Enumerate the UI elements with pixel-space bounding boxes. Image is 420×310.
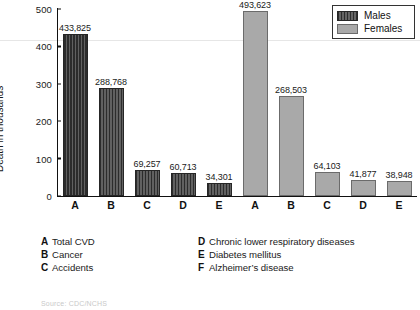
x-axis-tick-label: E bbox=[381, 199, 417, 211]
legend-label-females: Females bbox=[364, 23, 402, 34]
key-item: B Cancer bbox=[41, 249, 95, 262]
key-item: C Accidents bbox=[41, 262, 95, 275]
y-axis-tick: 200 bbox=[36, 116, 57, 127]
key-letter: D bbox=[198, 236, 209, 247]
bar-males-b: 288,768 bbox=[99, 88, 124, 196]
bar-males-c: 69,257 bbox=[135, 170, 160, 196]
key-item: A Total CVD bbox=[41, 236, 95, 249]
legend-entry-males: Males bbox=[337, 9, 410, 22]
bar-females-b: 268,503 bbox=[279, 96, 304, 196]
bar-slot: 288,768 bbox=[99, 9, 124, 196]
x-axis-tick-label: A bbox=[237, 199, 273, 211]
key-item: F Alzheimer’s disease bbox=[198, 262, 354, 275]
bar-value-label: 41,877 bbox=[350, 169, 377, 179]
y-axis-tick: 0 bbox=[47, 191, 57, 202]
key-letter: B bbox=[41, 249, 52, 260]
category-key-left-column: A Total CVD B Cancer C Accidents bbox=[41, 236, 95, 275]
key-text: Cancer bbox=[52, 249, 83, 260]
x-axis-tick-label: E bbox=[201, 199, 237, 211]
key-text: Diabetes mellitus bbox=[209, 249, 281, 260]
key-item: D Chronic lower respiratory diseases bbox=[198, 236, 354, 249]
bar-slot: 493,623 bbox=[243, 9, 268, 196]
key-letter: F bbox=[198, 262, 209, 273]
y-axis-title-text: Death in thousands bbox=[0, 52, 5, 172]
key-text: Total CVD bbox=[52, 236, 95, 247]
bar-slot: 34,301 bbox=[207, 9, 232, 196]
bar-value-label: 493,623 bbox=[239, 0, 271, 10]
bar-value-label: 64,103 bbox=[314, 161, 341, 171]
legend-swatch-females-icon bbox=[337, 24, 358, 34]
bar-value-label: 69,257 bbox=[134, 159, 161, 169]
bar-females-c: 64,103 bbox=[315, 172, 340, 196]
y-axis-tick: 300 bbox=[36, 78, 57, 89]
x-axis-line bbox=[57, 196, 417, 197]
legend-swatch-males-icon bbox=[337, 11, 358, 21]
x-axis-tick-label: B bbox=[273, 199, 309, 211]
bar-chart-figure: Death in thousands 0100200300400500 433,… bbox=[0, 0, 420, 310]
x-axis-tick-label: C bbox=[129, 199, 165, 211]
bar-value-label: 288,768 bbox=[95, 77, 127, 87]
x-axis-labels: ABCDEABCDE bbox=[57, 199, 417, 215]
legend-entry-females: Females bbox=[337, 22, 410, 35]
x-axis-tick-label: A bbox=[57, 199, 93, 211]
bar-value-label: 34,301 bbox=[206, 172, 233, 182]
key-letter: C bbox=[41, 262, 52, 273]
x-axis-tick-label: B bbox=[93, 199, 129, 211]
bar-males-e: 34,301 bbox=[207, 183, 232, 196]
key-letter: E bbox=[198, 249, 209, 260]
bar-slot: 433,825 bbox=[63, 9, 88, 196]
legend-label-males: Males bbox=[364, 10, 391, 21]
x-axis-tick-label: D bbox=[165, 199, 201, 211]
y-axis-tick: 400 bbox=[36, 41, 57, 52]
bar-females-e: 38,948 bbox=[387, 181, 412, 196]
bar-slot: 268,503 bbox=[279, 9, 304, 196]
bar-slot: 69,257 bbox=[135, 9, 160, 196]
bar-females-d: 41,877 bbox=[351, 180, 376, 196]
x-axis-tick-label: C bbox=[309, 199, 345, 211]
y-axis-tick: 100 bbox=[36, 153, 57, 164]
bar-value-label: 38,948 bbox=[386, 170, 413, 180]
key-text: Accidents bbox=[52, 262, 93, 273]
bar-slot: 60,713 bbox=[171, 9, 196, 196]
key-text: Alzheimer’s disease bbox=[209, 262, 294, 273]
bar-value-label: 60,713 bbox=[170, 162, 197, 172]
key-text: Chronic lower respiratory diseases bbox=[209, 236, 354, 247]
bar-males-d: 60,713 bbox=[171, 173, 196, 196]
category-key-right-column: D Chronic lower respiratory diseases E D… bbox=[198, 236, 354, 275]
y-axis-tick: 500 bbox=[36, 4, 57, 15]
bar-value-label: 268,503 bbox=[275, 85, 307, 95]
y-axis-title: Death in thousands bbox=[0, 0, 5, 52]
key-letter: A bbox=[41, 236, 52, 247]
bar-females-a: 493,623 bbox=[243, 11, 268, 196]
bar-value-label: 433,825 bbox=[59, 23, 91, 33]
key-item: E Diabetes mellitus bbox=[198, 249, 354, 262]
category-key: A Total CVD B Cancer C Accidents D Chron… bbox=[0, 236, 420, 282]
chart-legend: Males Females bbox=[332, 5, 415, 39]
source-note: Source: CDC/NCHS bbox=[41, 300, 107, 310]
bar-males-a: 433,825 bbox=[63, 34, 88, 196]
x-axis-tick-label: D bbox=[345, 199, 381, 211]
